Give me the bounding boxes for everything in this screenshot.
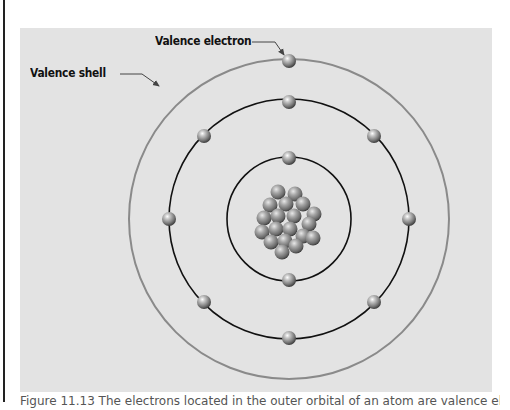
valence-shell-label: Valence shell	[30, 65, 106, 80]
page-margin-rule	[3, 0, 5, 402]
middle-electron	[367, 129, 381, 143]
middle-electron	[402, 212, 416, 226]
middle-electron	[282, 95, 296, 109]
atom-diagram-panel: Valence electron Valence shell	[20, 28, 492, 392]
middle-electron	[162, 212, 176, 226]
atom-diagram	[20, 28, 492, 392]
figure-caption: Figure 11.13 The electrons located in th…	[20, 394, 500, 410]
valence-electron	[282, 54, 296, 68]
middle-electron	[367, 295, 381, 309]
valence-shell-leader	[120, 74, 159, 86]
valence-electron-leader	[252, 42, 284, 55]
inner-electron	[282, 151, 296, 165]
middle-electron	[197, 129, 211, 143]
nucleus	[255, 185, 322, 260]
middle-electron	[197, 295, 211, 309]
valence-electron-label: Valence electron	[155, 33, 251, 48]
inner-electron	[282, 273, 296, 287]
middle-electron	[282, 331, 296, 345]
